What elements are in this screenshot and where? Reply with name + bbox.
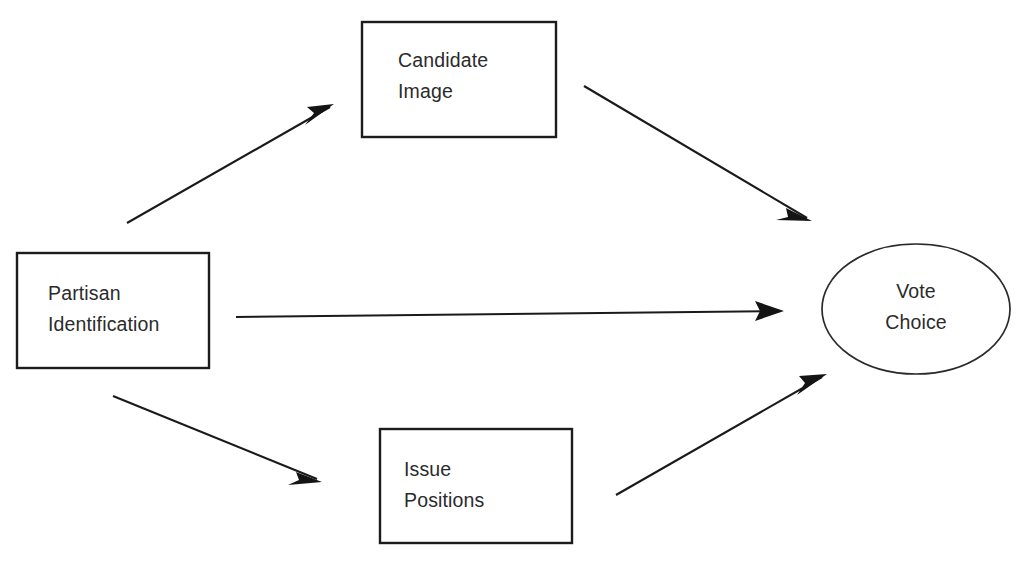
node-issue-positions[interactable]: Issue Positions [380,429,572,543]
edge-partisan-to-candidate-image[interactable] [127,104,334,223]
node-label-line1: Issue [404,458,451,480]
node-label-line2: Positions [404,489,485,511]
edge-candidate-image-to-vote-choice[interactable] [584,86,812,221]
edge-issue-positions-to-vote-choice[interactable] [616,374,827,495]
node-candidate-image[interactable]: Candidate Image [362,22,556,137]
edge-line [616,377,822,495]
node-partisan-identification[interactable]: Partisan Identification [17,253,209,368]
node-shape-rectangle [17,253,209,368]
path-diagram: Candidate Image Partisan Identification … [0,0,1029,566]
node-label-line2: Choice [885,311,947,333]
node-label-line1: Partisan [48,282,121,304]
node-label-line2: Identification [48,313,160,335]
edge-partisan-to-vote-choice[interactable] [236,301,784,321]
node-shape-rectangle [362,22,556,137]
node-shape-ellipse [822,244,1010,374]
edge-line [127,107,330,223]
node-label-line1: Candidate [398,49,488,71]
node-label-line2: Image [398,80,453,102]
node-vote-choice[interactable]: Vote Choice [822,244,1010,374]
arrowhead-icon [797,374,827,395]
edge-line [113,396,317,479]
diagram-canvas: Candidate Image Partisan Identification … [0,0,1029,566]
nodes-layer: Candidate Image Partisan Identification … [17,22,1010,543]
edge-partisan-to-issue-positions[interactable] [113,396,322,485]
node-shape-rectangle [380,429,572,543]
edge-line [236,311,781,317]
node-label-line1: Vote [896,280,936,302]
arrowhead-icon [305,104,334,125]
edge-line [584,86,807,218]
